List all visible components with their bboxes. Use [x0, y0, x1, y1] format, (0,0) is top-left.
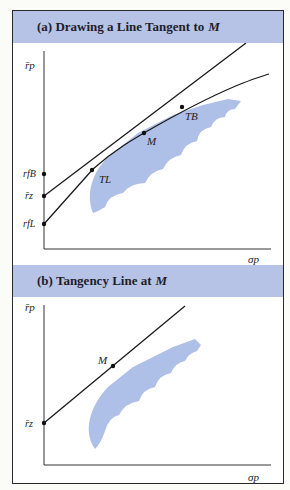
point-T-B [180, 105, 184, 109]
point-M-b [111, 364, 115, 368]
label-r-fL: rfL [23, 218, 36, 229]
panel-b-header: (b) Tangency Line at M [13, 265, 283, 297]
panel-a-title-var: M [208, 19, 220, 35]
panel-b-title-var: M [156, 273, 168, 289]
point-T-L [90, 168, 94, 172]
y-axis-label: r̄p [25, 59, 35, 71]
point-r-z [42, 194, 46, 198]
label-r-z-b: r̄z [25, 418, 33, 429]
x-axis-label: σp [248, 253, 259, 265]
figure-frame: (a) Drawing a Line Tangent to M r̄p σp r… [12, 10, 284, 484]
panel-a-title: (a) Drawing a Line Tangent to [37, 19, 204, 35]
label-r-z: r̄z [25, 190, 33, 201]
point-r-fL [42, 222, 46, 226]
panel-a-header: (a) Drawing a Line Tangent to M [13, 11, 283, 43]
panel-b-title: (b) Tangency Line at [37, 273, 152, 289]
label-M: M [146, 135, 157, 147]
point-M [142, 131, 146, 135]
y-axis-label-b: r̄p [25, 301, 35, 313]
feasible-region [90, 99, 241, 213]
label-M-b: M [97, 354, 108, 366]
label-T-L: TL [99, 173, 111, 185]
panel-b-chart: r̄p σp M r̄z [13, 297, 285, 483]
label-T-B: TB [185, 110, 198, 122]
x-axis-label-b: σp [248, 471, 259, 483]
point-r-z-b [42, 421, 46, 425]
label-r-fB: rfB [23, 168, 36, 179]
panel-a-chart: r̄p σp rfB r̄z rfL TL M TB [13, 43, 285, 265]
point-r-fB [42, 172, 46, 176]
